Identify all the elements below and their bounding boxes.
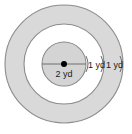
inner-diameter-label: 2 yd — [55, 69, 72, 79]
concentric-circles-svg: 2 yd 1 yd 1 yd — [0, 0, 132, 134]
outer-band-label: 1 yd — [106, 60, 123, 70]
geometry-figure: 2 yd 1 yd 1 yd — [0, 0, 132, 134]
center-point — [61, 61, 67, 67]
middle-band-label: 1 yd — [88, 60, 105, 70]
